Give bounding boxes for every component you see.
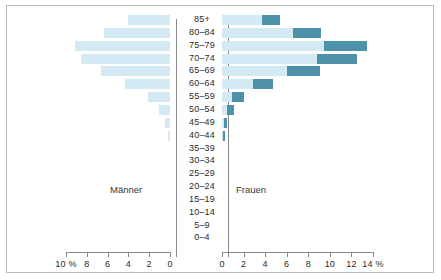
bar-frauen-light: [222, 41, 324, 51]
age-group-label: 15–19: [179, 194, 225, 204]
axis-tick: [149, 252, 150, 257]
age-group-label: 10–14: [179, 207, 225, 217]
bar-frauen-light: [222, 28, 293, 38]
age-group-label: 35–39: [179, 143, 225, 153]
bar-maenner: [159, 105, 170, 115]
bar-maenner: [104, 28, 170, 38]
chart-frame: 85+80–8475–7970–7465–6960–6455–5950–5445…: [6, 5, 434, 273]
axis-tick: [351, 252, 352, 257]
axis-tick: [170, 252, 171, 257]
bar-maenner: [168, 131, 170, 141]
axis-tick: [373, 252, 374, 257]
age-group-label: 5–9: [179, 220, 225, 230]
axis-tick-label: 14 %: [353, 259, 393, 269]
left-axis-line: [176, 19, 177, 257]
age-group-label: 65–69: [179, 65, 225, 75]
axis-tick: [128, 252, 129, 257]
bar-frauen-light: [222, 79, 253, 89]
age-group-label: 60–64: [179, 78, 225, 88]
axis-tick: [287, 252, 288, 257]
bar-frauen-light: [222, 54, 317, 64]
age-group-label: 50–54: [179, 104, 225, 114]
bar-maenner: [81, 54, 170, 64]
panel-label-frauen: Frauen: [236, 184, 266, 195]
bar-maenner: [148, 92, 170, 102]
bar-frauen-light: [222, 15, 262, 25]
age-group-label: 70–74: [179, 53, 225, 63]
axis-tick: [265, 252, 266, 257]
axis-tick-label: 0: [150, 259, 190, 269]
age-group-label: 85+: [179, 14, 225, 24]
age-group-label: 30–34: [179, 155, 225, 165]
axis-baseline: [222, 252, 373, 253]
axis-tick: [330, 252, 331, 257]
age-group-label: 80–84: [179, 27, 225, 37]
age-group-label: 20–24: [179, 181, 225, 191]
age-group-label: 55–59: [179, 91, 225, 101]
axis-tick: [108, 252, 109, 257]
axis-tick: [308, 252, 309, 257]
bar-maenner: [101, 66, 170, 76]
axis-baseline: [66, 252, 170, 253]
panel-label-maenner: Männer: [110, 184, 142, 195]
age-group-label: 75–79: [179, 40, 225, 50]
bar-maenner: [165, 118, 170, 128]
bar-frauen-light: [222, 66, 287, 76]
bar-maenner: [75, 41, 170, 51]
axis-tick: [66, 252, 67, 257]
axis-tick: [222, 252, 223, 257]
axis-tick: [87, 252, 88, 257]
age-group-label: 40–44: [179, 130, 225, 140]
age-group-label: 25–29: [179, 168, 225, 178]
age-group-label: 0–4: [179, 232, 225, 242]
age-group-label: 45–49: [179, 117, 225, 127]
bar-maenner: [128, 15, 170, 25]
bar-maenner: [125, 79, 170, 89]
axis-tick: [244, 252, 245, 257]
population-pyramid-figure: 85+80–8475–7970–7465–6960–6455–5950–5445…: [0, 0, 441, 280]
